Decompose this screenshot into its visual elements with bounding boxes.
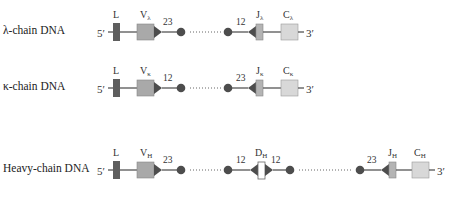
v-segment xyxy=(137,24,154,40)
v-segment xyxy=(137,80,154,96)
heptamer-triangle-icon xyxy=(381,164,389,176)
j-subscript: κ xyxy=(260,70,264,78)
svg-text:Cκ: Cκ xyxy=(283,65,294,78)
svg-text:Jκ: Jκ xyxy=(256,65,264,78)
heptamer-triangle-icon xyxy=(154,164,162,176)
j-subscript: λ xyxy=(260,14,264,22)
leader-label: L xyxy=(113,9,119,20)
nonamer-circle-icon xyxy=(224,166,233,175)
c-subscript: κ xyxy=(290,70,294,78)
j-segment xyxy=(256,80,263,96)
spacer-label: 12 xyxy=(236,155,246,165)
v-subscript: λ xyxy=(147,14,151,22)
svg-text:Cλ: Cλ xyxy=(283,9,294,22)
c-segment xyxy=(412,162,429,178)
leader-segment xyxy=(113,79,120,97)
d-subscript: H xyxy=(262,152,267,160)
svg-text:Vλ: Vλ xyxy=(140,9,151,22)
five-prime-label: 5′ xyxy=(97,27,105,39)
leader-label: L xyxy=(113,147,119,158)
d-label: D xyxy=(255,147,262,158)
nonamer-circle-icon xyxy=(224,28,233,37)
c-subscript: λ xyxy=(290,14,294,22)
spacer-label: 12 xyxy=(236,17,246,27)
svg-text:DH: DH xyxy=(255,147,267,160)
nonamer-circle-icon xyxy=(286,166,295,175)
v-segment xyxy=(137,162,154,178)
spacer-label: 23 xyxy=(163,17,173,27)
spacer-label: 23 xyxy=(236,73,246,83)
svg-text:CH: CH xyxy=(414,147,426,160)
spacer-label: 23 xyxy=(367,155,377,165)
svg-text:Jλ: Jλ xyxy=(256,9,264,22)
j-segment xyxy=(389,162,396,178)
spacer-label: 23 xyxy=(163,155,173,165)
heptamer-triangle-icon xyxy=(154,26,162,38)
nonamer-circle-icon xyxy=(224,84,233,93)
v-subscript: κ xyxy=(147,70,151,78)
svg-text:VH: VH xyxy=(140,147,152,160)
spacer-label: 12 xyxy=(271,155,281,165)
three-prime-label: 3′ xyxy=(306,27,314,39)
heptamer-triangle-icon xyxy=(248,26,256,38)
leader-label: L xyxy=(113,65,119,76)
lambda-locus: 5′ L Vλ 23 12 Jλ Cλ 3′ xyxy=(97,9,314,41)
spacer-label: 12 xyxy=(163,73,173,83)
heptamer-triangle-icon xyxy=(248,82,256,94)
nonamer-circle-icon xyxy=(356,166,365,175)
c-subscript: H xyxy=(421,152,426,160)
gene-segment-diagram: 5′ L Vλ 23 12 Jλ Cλ 3′ 5′ L Vκ 12 xyxy=(0,0,451,197)
heptamer-triangle-icon xyxy=(250,164,258,176)
nonamer-circle-icon xyxy=(177,166,186,175)
svg-text:Vκ: Vκ xyxy=(140,65,151,78)
leader-segment xyxy=(113,23,120,41)
leader-segment xyxy=(113,161,120,179)
nonamer-circle-icon xyxy=(177,84,186,93)
c-segment xyxy=(281,24,298,40)
three-prime-label: 3′ xyxy=(306,83,314,95)
kappa-locus: 5′ L Vκ 12 23 Jκ Cκ 3′ xyxy=(97,65,314,97)
nonamer-circle-icon xyxy=(177,28,186,37)
heptamer-triangle-icon xyxy=(265,164,273,176)
heavy-locus: 5′ L VH 23 12 DH 12 23 JH CH 3′ xyxy=(97,147,445,179)
j-subscript: H xyxy=(392,152,397,160)
svg-text:JH: JH xyxy=(388,147,397,160)
five-prime-label: 5′ xyxy=(97,165,105,177)
heptamer-triangle-icon xyxy=(154,82,162,94)
three-prime-label: 3′ xyxy=(437,165,445,177)
j-segment xyxy=(256,24,263,40)
c-segment xyxy=(281,80,298,96)
d-segment xyxy=(258,162,265,179)
five-prime-label: 5′ xyxy=(97,83,105,95)
v-subscript: H xyxy=(147,152,152,160)
